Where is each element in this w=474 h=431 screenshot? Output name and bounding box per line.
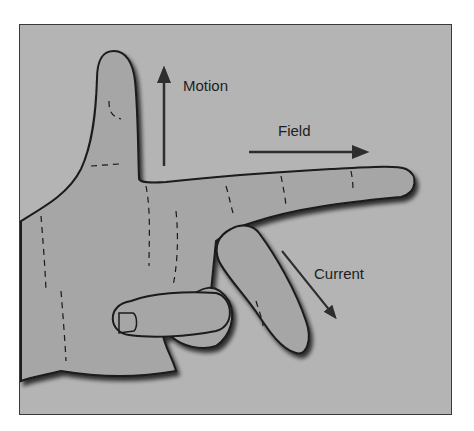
motion-label: Motion	[183, 77, 228, 94]
current-label: Current	[314, 265, 364, 282]
hand-illustration	[20, 25, 452, 415]
middle-finger	[217, 226, 309, 354]
field-label: Field	[278, 122, 311, 139]
hand	[21, 51, 415, 381]
diagram-frame: Motion Field Current	[19, 24, 452, 415]
